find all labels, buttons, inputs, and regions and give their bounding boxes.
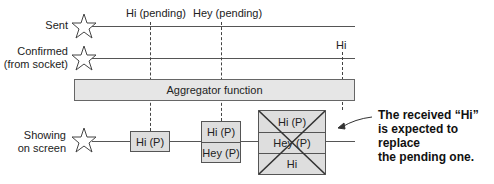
arrow-left-icon — [338, 117, 372, 129]
annotation-line-3: the pending one. — [378, 150, 494, 164]
annotation-line-2: is expected to replace — [378, 122, 494, 150]
star-outline-icon — [72, 46, 96, 70]
annotation-line-1: The received “Hi” — [378, 108, 494, 122]
cross-out-icon — [259, 111, 325, 174]
star-outline-icon — [72, 128, 96, 152]
annotation-note: The received “Hi” is expected to replace… — [378, 108, 494, 164]
star-outline-icon — [72, 14, 96, 38]
